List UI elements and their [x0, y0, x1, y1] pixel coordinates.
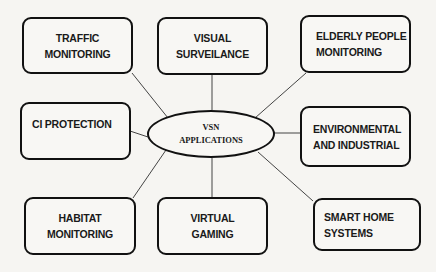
node-label: HABITAT MONITORING [47, 210, 113, 242]
node-label: SMART HOME SYSTEMS [324, 209, 394, 241]
node-label: ELDERLY PEOPLE MONITORING [316, 28, 407, 60]
node-virtual-gaming: VIRTUAL GAMING [157, 197, 268, 255]
node-label: VIRTUAL GAMING [190, 210, 234, 242]
edge-ci [130, 131, 148, 137]
node-traffic-monitoring: TRAFFIC MONITORING [22, 17, 133, 74]
center-node-vsn-applications: VSN APPLICATIONS [147, 110, 275, 158]
node-ci-protection: CI PROTECTION [20, 102, 131, 160]
node-habitat-monitoring: HABITAT MONITORING [24, 197, 136, 255]
node-elderly-people-monitoring: ELDERLY PEOPLE MONITORING [300, 15, 411, 73]
edge-habitat [133, 150, 166, 198]
node-label: TRAFFIC MONITORING [44, 30, 110, 62]
node-smart-home-systems: SMART HOME SYSTEMS [313, 198, 421, 251]
node-label: CI PROTECTION [32, 116, 112, 132]
edge-elderly [255, 73, 306, 118]
node-environmental-and-industrial: ENVIRONMENTAL AND INDUSTRIAL [300, 106, 411, 167]
node-label: ENVIRONMENTAL AND INDUSTRIAL [313, 121, 401, 153]
node-visual-surveillance: VISUAL SURVEILANCE [157, 17, 268, 75]
node-label: VISUAL SURVEILANCE [176, 30, 249, 62]
edge-traffic [132, 73, 168, 118]
center-node-label: VSN APPLICATIONS [179, 121, 243, 147]
vsn-applications-diagram: VSN APPLICATIONS TRAFFIC MONITORING VISU… [0, 0, 436, 272]
